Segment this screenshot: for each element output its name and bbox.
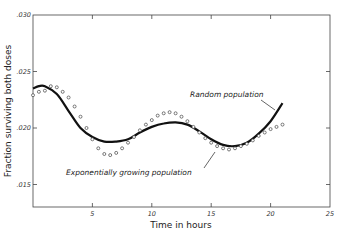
- data-point: [204, 137, 207, 140]
- chart: 5 10 15 20 25 .030 .025 .020 .015 Time i…: [0, 0, 342, 242]
- data-point: [67, 96, 70, 99]
- x-tick-label-20: 20: [266, 210, 274, 218]
- data-point: [174, 112, 177, 115]
- y-axis-label: Fraction surviving both doses: [3, 45, 13, 178]
- data-point: [61, 90, 64, 93]
- y-tick-label-030: .030: [17, 11, 31, 19]
- data-point: [103, 153, 106, 156]
- data-point: [91, 138, 94, 141]
- data-point: [85, 127, 88, 130]
- x-axis-label: Time in hours: [149, 220, 212, 230]
- data-point: [222, 147, 225, 150]
- data-point: [239, 145, 242, 148]
- data-point: [79, 115, 82, 118]
- data-point: [156, 114, 159, 117]
- data-point: [168, 111, 171, 114]
- x-tick-label-25: 25: [326, 210, 334, 218]
- data-point: [32, 94, 35, 97]
- data-point: [180, 115, 183, 118]
- data-point: [115, 151, 118, 154]
- y-tick-label-020: .020: [17, 124, 31, 132]
- data-point: [275, 125, 278, 128]
- data-point: [251, 139, 254, 142]
- data-point: [234, 147, 237, 150]
- data-point: [43, 89, 46, 92]
- data-point: [73, 105, 76, 108]
- label-exponential-population: Exponentially growing population: [66, 168, 192, 177]
- data-point: [216, 145, 219, 148]
- data-point: [150, 119, 153, 122]
- data-point: [109, 154, 112, 157]
- data-point: [186, 120, 189, 123]
- data-point: [121, 147, 124, 150]
- data-point: [127, 141, 130, 144]
- x-tick-label-15: 15: [207, 210, 215, 218]
- plot-frame: [33, 15, 330, 207]
- y-tick-label-025: .025: [17, 68, 31, 76]
- data-point: [49, 85, 52, 88]
- data-point: [257, 134, 260, 137]
- x-tick-label-5: 5: [90, 210, 94, 218]
- data-point: [269, 128, 272, 131]
- data-point: [97, 147, 100, 150]
- data-point: [210, 141, 213, 144]
- data-point: [263, 131, 266, 134]
- data-point: [133, 136, 136, 139]
- data-point: [138, 129, 141, 132]
- data-point: [228, 148, 231, 151]
- data-point: [245, 142, 248, 145]
- label-random-population: Random population: [190, 90, 264, 99]
- leader-random-population: [261, 100, 275, 110]
- y-tick-label-015: .015: [17, 181, 31, 189]
- x-tick-label-10: 10: [148, 210, 156, 218]
- x-ticks: [92, 15, 270, 207]
- data-point: [37, 90, 40, 93]
- data-point: [162, 112, 165, 115]
- data-point: [192, 125, 195, 128]
- data-point: [281, 123, 284, 126]
- data-point: [144, 123, 147, 126]
- data-point: [55, 86, 58, 89]
- leader-exponential-population: [204, 152, 215, 168]
- data-point: [198, 131, 201, 134]
